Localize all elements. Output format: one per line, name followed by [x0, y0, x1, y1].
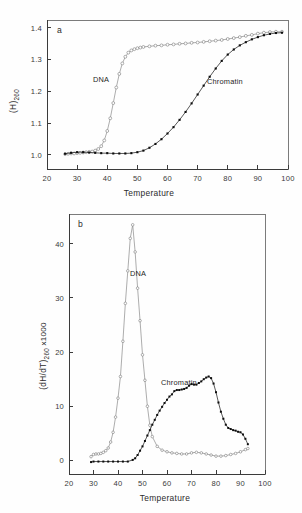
- panel-b-marker-dna: [234, 452, 237, 455]
- panel-b-ytick-label: 40: [55, 240, 64, 249]
- panel-b-marker-dna: [114, 416, 117, 419]
- panel-b-marker-chromatin: [247, 443, 249, 445]
- panel-b-xtick-label: 30: [89, 479, 98, 488]
- panel-a-marker-chromatin: [124, 152, 126, 154]
- panel-b-marker-dna: [239, 450, 242, 453]
- figure-container: 20304050607080901001.01.11.21.31.4 a DNA…: [0, 0, 302, 513]
- panel-b-ytick-label: 0: [60, 456, 64, 465]
- panel-b-marker-dna: [131, 224, 134, 227]
- panel-a-ytick-label: 1.1: [31, 119, 42, 128]
- panel-b-xtick-label: 80: [212, 479, 221, 488]
- panel-a-marker-chromatin: [197, 93, 199, 95]
- panel-a-marker-dna: [97, 148, 100, 151]
- panel-b-marker-dna: [210, 454, 213, 457]
- panel-b-marker-chromatin: [107, 461, 109, 463]
- panel-a-marker-dna: [139, 46, 142, 49]
- panel-b-marker-dna: [215, 455, 218, 458]
- panel-a-marker-dna: [109, 117, 112, 120]
- panel-a-marker-dna: [220, 39, 223, 42]
- panel-a-chromatin-label: Chromatin: [207, 77, 243, 86]
- panel-a-ytick-label: 1.2: [31, 87, 42, 96]
- panel-a-marker-chromatin: [263, 34, 265, 36]
- panel-b-marker-dna: [180, 453, 183, 456]
- panel-a-marker-dna: [226, 38, 229, 41]
- panel-b-marker-chromatin: [244, 438, 246, 440]
- panel-b-marker-chromatin: [237, 431, 239, 433]
- panel-a-ytick-label: 1.3: [31, 55, 42, 64]
- panel-b-axes: [69, 214, 265, 474]
- panel-b-marker-dna: [139, 319, 142, 322]
- panel-b-marker-dna: [200, 452, 203, 455]
- panel-b-xtick-label: 50: [138, 479, 147, 488]
- panel-b-marker-dna: [166, 450, 169, 453]
- panel-a-marker-dna: [214, 39, 217, 42]
- panel-a-marker-dna: [256, 32, 259, 35]
- panel-a-marker-chromatin: [233, 48, 235, 50]
- panel-b-marker-dna: [220, 455, 223, 458]
- panel-b-marker-chromatin: [134, 457, 136, 459]
- panel-b-marker-chromatin: [176, 389, 178, 391]
- panel-a-marker-dna: [208, 40, 211, 43]
- panel-b-marker-dna: [90, 455, 93, 458]
- panel-b: 2030405060708090100010203040 b DNA Chrom…: [0, 204, 302, 513]
- panel-a-marker-dna: [130, 49, 133, 52]
- panel-b-marker-chromatin: [213, 383, 215, 385]
- panel-b-marker-chromatin: [156, 414, 158, 416]
- panel-a-frame-box: [47, 20, 288, 169]
- panel-a-marker-chromatin: [64, 153, 66, 155]
- panel-a-marker-chromatin: [148, 147, 150, 149]
- panel-a-marker-dna: [94, 149, 97, 152]
- svg-text:(dH/dT)260 x1000: (dH/dT)260 x1000: [38, 322, 50, 390]
- panel-b-marker-chromatin: [146, 435, 148, 437]
- panel-a-curve-dna: [65, 32, 282, 154]
- panel-a-marker-dna: [133, 48, 136, 51]
- panel-a-marker-chromatin: [221, 60, 223, 62]
- panel-a-marker-chromatin: [130, 152, 132, 154]
- panel-b-xtick-label: 60: [163, 479, 172, 488]
- panel-a-frame: [47, 20, 288, 169]
- panel-b-marker-chromatin: [144, 440, 146, 442]
- panel-b-marker-chromatin: [181, 389, 183, 391]
- panel-b-marker-dna: [92, 453, 95, 456]
- panel-a-xtick-label: 30: [73, 174, 82, 183]
- panel-a-ticks: [47, 28, 288, 169]
- panel-a-marker-chromatin: [227, 54, 229, 56]
- panel-a-marker-dna: [106, 130, 109, 133]
- panel-a-marker-chromatin: [136, 151, 138, 153]
- panel-a-marker-dna: [112, 102, 115, 105]
- svg-text:(H)260: (H)260: [8, 89, 20, 113]
- panel-a: 20304050607080901001.01.11.21.31.4 a DNA…: [0, 6, 302, 202]
- panel-b-marker-dna: [151, 435, 154, 438]
- panel-a-yaxis-sub: 260: [13, 89, 20, 101]
- panel-b-marker-dna: [146, 405, 149, 408]
- panel-b-marker-chromatin: [154, 419, 156, 421]
- panel-a-axes: [47, 20, 288, 169]
- panel-b-marker-chromatin: [122, 461, 124, 463]
- panel-a-marker-chromatin: [179, 119, 181, 121]
- panel-b-marker-dna: [225, 454, 228, 457]
- panel-b-marker-dna: [124, 302, 127, 305]
- panel-b-marker-dna: [97, 453, 100, 456]
- panel-b-marker-chromatin: [173, 390, 175, 392]
- panel-b-marker-dna: [161, 449, 164, 452]
- panel-a-ytick-label: 1.4: [31, 24, 42, 33]
- panel-b-ytick-label: 10: [55, 402, 64, 411]
- panel-b-marker-chromatin: [166, 399, 168, 401]
- panel-a-marker-dna: [79, 151, 82, 154]
- panel-b-yaxis-main: (dH/dT): [38, 359, 48, 389]
- panel-a-marker-chromatin: [251, 38, 253, 40]
- panel-b-marker-dna: [136, 287, 139, 290]
- panel-b-marker-chromatin: [205, 377, 207, 379]
- panel-b-yaxis-sub: 260: [43, 348, 50, 360]
- panel-b-marker-dna: [129, 237, 132, 240]
- panel-a-marker-dna: [184, 42, 187, 45]
- panel-b-marker-chromatin: [151, 424, 153, 426]
- panel-a-marker-dna: [136, 47, 139, 50]
- panel-b-marker-dna: [149, 424, 152, 427]
- panel-b-marker-dna: [134, 251, 137, 254]
- panel-a-marker-dna: [232, 37, 235, 40]
- panel-b-plot: 2030405060708090100010203040 b DNA Chrom…: [0, 204, 302, 513]
- panel-b-marker-chromatin: [220, 411, 222, 413]
- panel-b-marker-chromatin: [139, 450, 141, 452]
- panel-a-marker-chromatin: [118, 152, 120, 154]
